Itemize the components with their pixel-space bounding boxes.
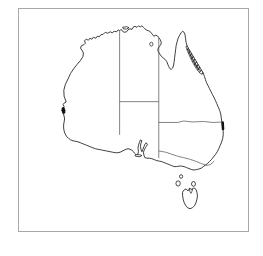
perth-coastal-dot	[62, 108, 66, 112]
figure-caption	[18, 234, 249, 254]
groote-eylandt	[150, 42, 153, 46]
australia-map-svg[interactable]	[19, 9, 248, 231]
map-frame	[18, 8, 249, 232]
kangaroo-island	[135, 155, 142, 157]
bass-strait-islet	[179, 175, 182, 179]
mainland-coastline	[62, 26, 223, 170]
figure-container	[0, 0, 263, 256]
king-island	[176, 181, 180, 186]
melville-island	[123, 27, 129, 29]
flinders-island	[191, 182, 195, 187]
